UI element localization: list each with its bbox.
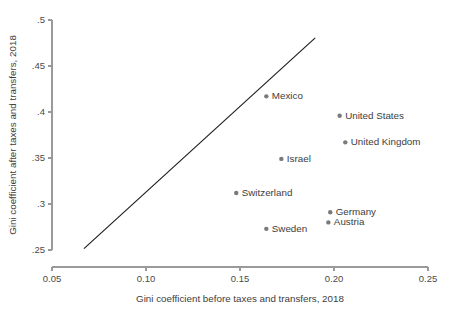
x-tick-label-0: 0.05 xyxy=(43,273,62,284)
x-tick-label-3: 0.20 xyxy=(325,273,344,284)
chart-figure: .25.3.35.4.45.50.050.100.150.200.25 Mexi… xyxy=(0,0,455,315)
x-tick-label-1: 0.10 xyxy=(137,273,156,284)
data-point-switzerland xyxy=(234,191,238,195)
y-tick-label-4: .45 xyxy=(32,60,45,71)
data-point-united-kingdom xyxy=(343,140,347,144)
y-tick-label-5: .5 xyxy=(37,14,45,25)
data-point-united-states xyxy=(337,113,341,117)
x-tick-label-4: 0.25 xyxy=(419,273,438,284)
point-label-switzerland: Switzerland xyxy=(242,187,293,198)
data-point-mexico xyxy=(264,94,268,98)
x-tick-label-2: 0.15 xyxy=(231,273,250,284)
y-tick-label-2: .35 xyxy=(32,152,45,163)
point-label-israel: Israel xyxy=(287,153,311,164)
y-tick-label-1: .3 xyxy=(37,198,45,209)
equality-reference-line xyxy=(84,38,315,249)
data-point-sweden xyxy=(264,227,268,231)
data-point-germany xyxy=(328,210,332,214)
data-points-group: MexicoUnited StatesUnited KingdomIsraelS… xyxy=(234,90,420,233)
point-label-mexico: Mexico xyxy=(272,90,304,101)
y-axis-title: Gini coefficient after taxes and transfe… xyxy=(7,35,18,235)
point-label-austria: Austria xyxy=(334,216,365,227)
tick-labels-group: .25.3.35.4.45.50.050.100.150.200.25 xyxy=(32,14,437,284)
data-point-israel xyxy=(279,157,283,161)
y-tick-label-0: .25 xyxy=(32,244,45,255)
reference-line-group xyxy=(84,38,315,249)
point-label-united-states: United States xyxy=(345,110,404,121)
point-label-united-kingdom: United Kingdom xyxy=(351,136,421,147)
scatter-plot: .25.3.35.4.45.50.050.100.150.200.25 Mexi… xyxy=(0,0,455,315)
axis-titles-group: Gini coefficient before taxes and transf… xyxy=(7,35,344,304)
data-point-austria xyxy=(326,220,330,224)
x-axis-title: Gini coefficient before taxes and transf… xyxy=(136,293,344,304)
point-label-sweden: Sweden xyxy=(272,223,307,234)
y-tick-label-3: .4 xyxy=(37,106,45,117)
